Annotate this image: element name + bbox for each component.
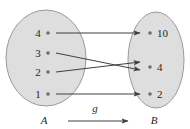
set-b-name-label: B (151, 114, 158, 126)
set-b-label-10: 10 (157, 27, 169, 39)
set-a-dot-1 (46, 92, 50, 96)
set-a-label-2: 2 (35, 66, 41, 78)
set-a-label-4: 4 (35, 27, 41, 39)
set-b-label-4: 4 (157, 61, 163, 73)
set-a-dot-4 (46, 31, 50, 35)
set-b-dot-4 (148, 65, 152, 69)
set-a-label-1: 1 (35, 88, 41, 100)
set-b-dot-10 (148, 31, 152, 35)
function-label-g: g (92, 102, 98, 114)
set-b-label-2: 2 (157, 88, 163, 100)
set-a-dot-3 (46, 51, 50, 55)
set-a-label-3: 3 (35, 47, 41, 59)
set-a-ellipse (6, 10, 86, 106)
set-b-dot-2 (148, 92, 152, 96)
set-a-name-label: A (40, 114, 48, 126)
mapping-diagram: 4 3 2 1 10 4 2 g A B (0, 0, 190, 129)
set-a-dot-2 (46, 70, 50, 74)
diagram-canvas: 4 3 2 1 10 4 2 g A B (0, 0, 190, 129)
